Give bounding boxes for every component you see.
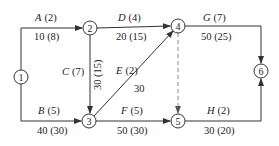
edge-e-top-label: E(2) [115, 65, 138, 77]
edge-a-top-label: A(2) [34, 12, 57, 24]
edge-f-bottom-label: 50 (30) [117, 125, 148, 137]
edge-d-bottom-label: 20 (15) [116, 31, 147, 43]
edge-f-top-label: F(5) [120, 105, 143, 117]
node-3: 3 [82, 114, 96, 128]
edge-g-top-label: G(7) [203, 12, 226, 24]
svg-text:5: 5 [176, 116, 181, 127]
edge-g-bottom-label: 50 (25) [201, 31, 232, 43]
edge-e-bottom-label: 30 [134, 83, 145, 94]
activity-network-diagram: 1 2 3 4 5 6 A(2) 10 (8) B(5) 40 (30) [0, 0, 279, 146]
svg-text:1: 1 [19, 72, 24, 83]
svg-text:6: 6 [259, 66, 264, 77]
node-4: 4 [171, 19, 185, 33]
node-5: 5 [171, 114, 185, 128]
svg-text:2: 2 [88, 23, 93, 34]
edge-a-bottom-label: 10 (8) [34, 31, 60, 43]
edge-d-top-label: D(4) [117, 12, 141, 24]
edge-h-bottom-label: 30 (20) [204, 125, 235, 137]
svg-text:3: 3 [87, 116, 92, 127]
node-2: 2 [83, 21, 97, 35]
edge-b-bottom-label: 40 (30) [37, 125, 68, 137]
edge-c-bottom-label: 30 (15) [92, 59, 104, 90]
node-6: 6 [254, 64, 268, 78]
svg-text:4: 4 [176, 21, 181, 32]
node-1: 1 [14, 70, 28, 84]
edge-labels: A(2) 10 (8) B(5) 40 (30) C(7) 30 (15) D(… [34, 12, 235, 137]
edge-b-top-label: B(5) [38, 105, 60, 117]
edge-d [97, 26, 170, 28]
edge-c-top-label: C(7) [62, 66, 85, 78]
edge-h-top-label: H(2) [206, 105, 230, 117]
